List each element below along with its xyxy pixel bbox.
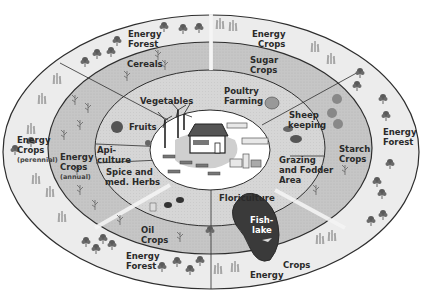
label-vegetables: Vegetables: [140, 96, 193, 106]
label-spice-herbs: Spice and med. Herbs: [105, 167, 160, 187]
label-poultry-farming: Poultry Farming: [224, 86, 263, 106]
label-sheep-keeping: Sheep keeping: [288, 110, 326, 130]
label-cereals: Cereals: [127, 59, 163, 69]
label-energy-crops-top: Energy Crops: [252, 29, 288, 49]
label-energy-bottom: Energy: [250, 270, 284, 280]
label-floriculture: Floriculture: [219, 193, 275, 203]
label-crops-bottom: Crops: [283, 260, 310, 270]
label-sugar-crops: Sugar Crops: [250, 55, 281, 75]
label-fruits: Fruits: [129, 122, 157, 132]
farm-house-icon: [188, 124, 228, 153]
energy-farm-diagram: Energy Forest Energy Crops Energy Forest…: [0, 0, 423, 300]
